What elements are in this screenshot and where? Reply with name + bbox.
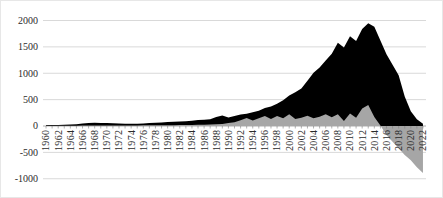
x-axis-label: 1962: [53, 130, 64, 152]
y-axis-label: -500: [20, 147, 38, 158]
x-axis-label: 1982: [174, 130, 185, 152]
y-axis-label: -1000: [15, 173, 38, 184]
x-axis-label: 2014: [369, 130, 380, 152]
x-axis-label: 1972: [113, 130, 124, 152]
x-axis-label: 2010: [344, 130, 355, 152]
x-axis-label: 2000: [284, 130, 295, 152]
x-axis-label: 1976: [138, 130, 149, 152]
x-axis-label: 1998: [271, 130, 282, 152]
x-axis-label: 1974: [126, 130, 137, 152]
x-axis-label: 2020: [405, 130, 416, 152]
x-axis-label: 1986: [199, 130, 210, 152]
x-axis-label: 1970: [101, 130, 112, 152]
x-axis-label: 2008: [332, 130, 343, 152]
y-axis-label: 0: [33, 120, 38, 131]
x-axis-label: 1988: [211, 130, 222, 152]
x-axis-label: 2018: [393, 130, 404, 152]
y-axis-label: 2000: [18, 15, 38, 26]
x-axis-label: 2006: [320, 130, 331, 152]
x-axis-label: 2004: [308, 130, 319, 152]
x-axis-label: 1996: [259, 130, 270, 152]
x-axis-label: 1984: [186, 130, 197, 152]
x-axis-label: 1978: [150, 130, 161, 152]
area-chart-svg: 1960196219641966196819701972197419761978…: [1, 1, 443, 198]
y-axis-label: 1000: [18, 68, 38, 79]
area-chart: 1960196219641966196819701972197419761978…: [1, 1, 442, 198]
x-axis-label: 1992: [235, 130, 246, 152]
y-axis-label: 1500: [18, 41, 38, 52]
x-axis-label: 1990: [223, 130, 234, 152]
chart-figure: 1960196219641966196819701972197419761978…: [0, 0, 443, 198]
x-axis-label: 1980: [162, 130, 173, 152]
y-axis-label: 500: [23, 94, 38, 105]
x-axis-label: 1960: [40, 130, 51, 152]
x-axis-label: 1968: [89, 130, 100, 152]
x-axis-label: 2012: [357, 130, 368, 152]
x-axis-label: 2002: [296, 130, 307, 152]
x-axis-label: 2022: [417, 130, 428, 152]
x-axis-label: 2016: [381, 130, 392, 152]
x-axis-label: 1966: [77, 130, 88, 152]
x-axis-label: 1994: [247, 130, 258, 152]
x-axis-label: 1964: [65, 130, 76, 152]
